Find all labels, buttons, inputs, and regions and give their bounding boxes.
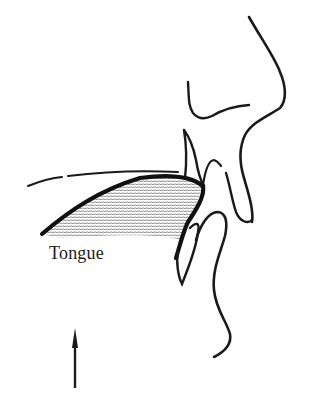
upper-lip-outline [226, 173, 252, 222]
nostril-outline [188, 82, 249, 118]
lower-lip-chin-outline [196, 212, 230, 357]
tongue-label: Tongue [49, 243, 104, 264]
nose-outline [240, 17, 285, 222]
alveolar-ridge [203, 160, 221, 185]
mouth-profile-diagram [0, 0, 309, 420]
up-arrow-icon [72, 328, 78, 388]
